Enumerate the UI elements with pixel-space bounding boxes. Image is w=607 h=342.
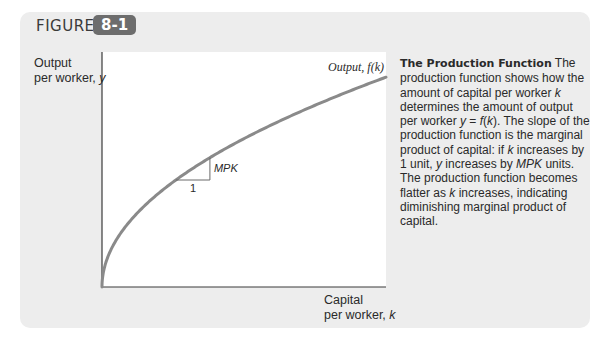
slope-run-label: 1 [190, 182, 196, 194]
x-axis-label-line1: Capital [324, 293, 396, 308]
y-axis-label-text: per worker, [34, 71, 99, 85]
caption-body: The production function shows how the am… [400, 56, 590, 228]
y-axis-label-line2: per worker, y [34, 71, 106, 86]
figure-caption: The Production Function The production f… [400, 56, 590, 229]
curve-label: Output, f(k) [328, 60, 384, 74]
caption-fragment: increases by [442, 157, 516, 171]
x-axis-label-line2: per worker, k [324, 308, 396, 323]
y-axis-label-line1: Output [34, 56, 106, 71]
caption-fragment: = [466, 114, 480, 128]
x-axis-var: k [389, 308, 395, 322]
caption-fragment: k [555, 86, 561, 100]
x-axis-label-text: per worker, [324, 308, 389, 322]
x-axis-label: Capital per worker, k [324, 293, 396, 323]
y-axis-label: Output per worker, y [34, 56, 106, 86]
caption-title: The Production Function [400, 57, 552, 70]
production-function-curve [102, 77, 386, 287]
y-axis-var: y [99, 71, 105, 85]
slope-rise-label: MPK [214, 162, 239, 174]
caption-fragment: MPK [516, 157, 542, 171]
